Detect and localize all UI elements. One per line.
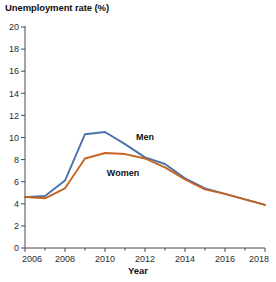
x-axis-title: Year [0, 265, 276, 276]
y-tick-label: 0 [14, 243, 19, 253]
y-tick-label: 20 [9, 22, 19, 32]
y-tick-label: 8 [14, 155, 19, 165]
y-tick-label: 18 [9, 44, 19, 54]
series-line-women [25, 153, 265, 205]
series-lines [25, 132, 265, 205]
unemployment-rate-line-chart: Unemployment rate (%) 02468101214161820 … [0, 0, 276, 282]
y-tick-label: 12 [9, 111, 19, 121]
x-tick-label: 2010 [95, 254, 115, 264]
x-tick-label: 2016 [215, 254, 235, 264]
x-tick-label: 2014 [175, 254, 195, 264]
y-tick-label: 4 [14, 199, 19, 209]
x-tick-label: 2012 [135, 254, 155, 264]
x-tick-label: 2018 [249, 254, 269, 264]
y-tick-label: 14 [9, 89, 19, 99]
y-tick-label: 10 [9, 133, 19, 143]
x-tick-label: 2006 [22, 254, 42, 264]
y-tick-label: 6 [14, 177, 19, 187]
y-axis: 02468101214161820 [9, 22, 25, 253]
series-line-men [25, 132, 265, 205]
chart-plot-area: 02468101214161820 2006200820102012201420… [0, 0, 276, 282]
y-tick-label: 2 [14, 221, 19, 231]
series-label-men: Men [136, 132, 154, 142]
series-label-women: Women [107, 168, 139, 178]
x-axis: 2006200820102012201420162018 [22, 248, 269, 264]
y-tick-label: 16 [9, 66, 19, 76]
x-tick-label: 2008 [55, 254, 75, 264]
